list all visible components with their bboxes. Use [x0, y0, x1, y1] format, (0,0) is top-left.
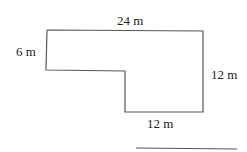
diagram-canvas: 24 m 6 m 12 m 12 m	[0, 0, 247, 152]
l-shape-outline	[46, 30, 203, 112]
left-dimension-label: 6 m	[16, 45, 36, 58]
right-dimension-label: 12 m	[211, 68, 237, 81]
top-dimension-label: 24 m	[117, 14, 143, 27]
bottom-dimension-label: 12 m	[147, 117, 173, 130]
answer-line	[136, 148, 237, 149]
